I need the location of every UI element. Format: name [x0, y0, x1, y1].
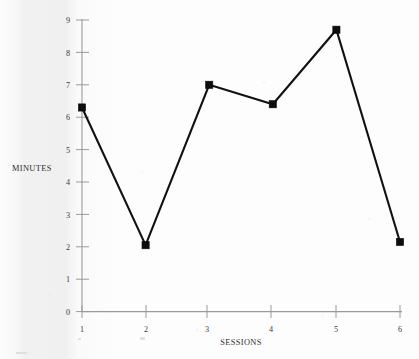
y-tick-label-5: 5	[66, 146, 70, 155]
data-point-marker	[269, 101, 276, 108]
x-tick-label-3: 3	[205, 325, 209, 334]
series-markers	[78, 26, 403, 249]
x-tick-label-5: 5	[334, 325, 338, 334]
y-tick-label-0: 0	[66, 308, 70, 317]
x-tick-label-4: 4	[269, 325, 273, 334]
x-axis: 1 2 3 4 5 6 SESSIONS	[80, 305, 402, 347]
series-minutes	[78, 26, 403, 249]
data-point-marker	[206, 81, 213, 88]
data-point-marker	[396, 238, 403, 245]
chart-page: 9 8 7 6 5 4 3 2 1 0 MINUTES 1 2 3 4	[0, 0, 419, 359]
y-tick-label-4: 4	[66, 178, 70, 187]
data-point-marker	[142, 242, 149, 249]
data-point-marker	[333, 26, 340, 33]
y-axis: 9 8 7 6 5 4 3 2 1 0 MINUTES	[12, 16, 89, 317]
y-tick-label-2: 2	[66, 243, 70, 252]
x-tick-label-6: 6	[398, 325, 402, 334]
y-tick-label-1: 1	[66, 275, 70, 284]
y-tick-label-9: 9	[66, 16, 70, 25]
x-tick-label-1: 1	[80, 325, 84, 334]
x-axis-title: SESSIONS	[220, 338, 261, 347]
y-tick-label-6: 6	[66, 113, 70, 122]
y-tick-label-3: 3	[66, 211, 70, 220]
x-tick-label-2: 2	[144, 325, 148, 334]
series-line-minutes	[82, 30, 400, 245]
y-axis-title: MINUTES	[12, 164, 52, 173]
data-point-marker	[78, 104, 85, 111]
y-tick-label-8: 8	[66, 49, 70, 58]
y-tick-label-7: 7	[66, 81, 70, 90]
line-chart: 9 8 7 6 5 4 3 2 1 0 MINUTES 1 2 3 4	[0, 0, 419, 359]
